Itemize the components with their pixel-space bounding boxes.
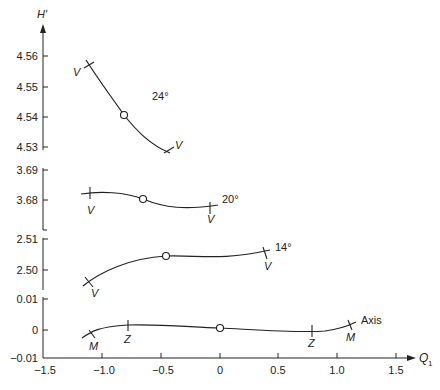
x-tick-label: −1.0	[93, 364, 115, 376]
y-tick-label: 4.53	[17, 141, 38, 153]
x-tick-label: −1.5	[34, 364, 56, 376]
x-axis-label: Q	[419, 351, 428, 365]
y-tick-label: 3.68	[17, 194, 38, 206]
series-label-14deg: 14°	[275, 241, 292, 253]
marker-circle-axis	[217, 325, 224, 332]
x-tick-label: 0	[217, 364, 223, 376]
x-tick-label: 1.5	[388, 364, 403, 376]
point-label-m: M	[346, 331, 356, 343]
y-tick-label: 4.55	[17, 81, 38, 93]
y-tick-label: 4.54	[17, 111, 38, 123]
point-label-m: M	[89, 340, 99, 352]
y-tick-label: 2.50	[17, 264, 38, 276]
x-tick-label: 0.5	[270, 364, 285, 376]
point-label-z: Z	[123, 333, 132, 345]
point-label-v: V	[264, 260, 273, 272]
series-label-20deg: 20°	[222, 193, 239, 205]
point-label-z: Z	[307, 337, 316, 349]
chart: H′ Q 1 4.56 4.55 4.54 4.53 3.69 3.68 2.5…	[0, 0, 440, 390]
point-label-v: V	[87, 204, 96, 216]
point-label-v: V	[175, 139, 184, 151]
x-tick-label: −0.5	[152, 364, 174, 376]
marker-circle-14	[163, 253, 170, 260]
chart-canvas: H′ Q 1 4.56 4.55 4.54 4.53 3.69 3.68 2.5…	[0, 0, 440, 390]
y-axis-label: H′	[37, 8, 48, 20]
point-label-v: V	[207, 213, 216, 225]
y-tick-label: 4.56	[17, 50, 38, 62]
y-tick-label: −0.01	[10, 352, 38, 364]
curve-24deg	[86, 60, 170, 153]
marker-circle-20	[140, 196, 147, 203]
y-tick-label: 2.51	[17, 233, 38, 245]
y-tick-label: 0	[32, 324, 38, 336]
x-axis-arrow-icon	[407, 355, 416, 361]
series-label-24deg: 24°	[152, 90, 169, 102]
point-label-v: V	[73, 66, 82, 78]
y-tick-label: 3.69	[17, 164, 38, 176]
curve-20deg	[81, 192, 218, 207]
y-axis-arrow-icon	[40, 24, 46, 33]
x-axis-label-sub: 1	[428, 359, 433, 368]
x-tick-label: 1.0	[329, 364, 344, 376]
y-tick-label: 0.01	[17, 293, 38, 305]
curve-14deg	[83, 250, 270, 286]
point-label-v: V	[91, 287, 100, 299]
series-label-axis: Axis	[361, 314, 382, 326]
marker-circle-24	[121, 112, 128, 119]
